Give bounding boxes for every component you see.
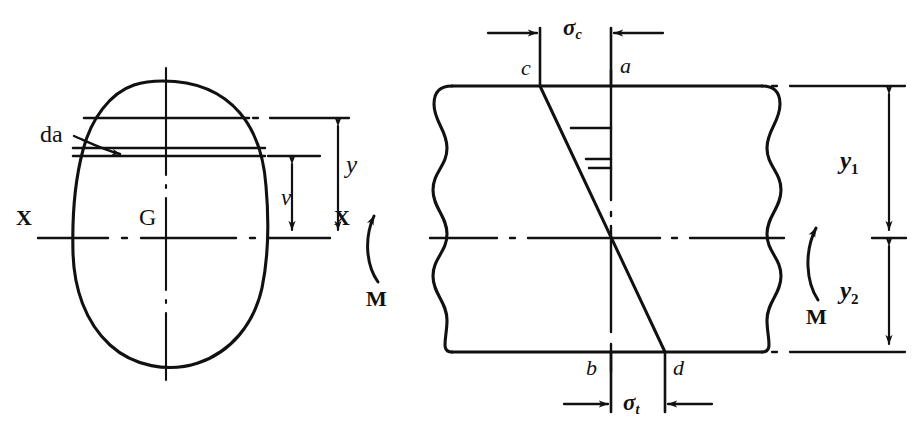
label-point-c: c: [521, 57, 531, 79]
label-moment-right: M: [806, 306, 827, 328]
cross-section-outline: [73, 81, 268, 367]
left-projection-lines: [253, 118, 349, 156]
label-point-a: a: [620, 55, 631, 77]
moment-arrow-left: [368, 216, 378, 282]
label-dimension-y2: y2: [840, 278, 859, 307]
label-point-b: b: [586, 357, 597, 379]
label-dimension-y: y: [346, 152, 357, 177]
label-sigma-c-subscript: c: [575, 26, 581, 42]
label-y2-subscript: 2: [851, 291, 859, 307]
label-point-d: d: [673, 357, 684, 379]
stress-diagonal-line: [540, 86, 665, 352]
label-sigma-t-subscript: t: [635, 401, 639, 417]
beam-outline: [433, 86, 781, 352]
moment-arrow-right: [808, 228, 818, 300]
figure-root: da G X X y v M σc c a b d σt y1 y2: [0, 0, 913, 432]
label-dimension-v: v: [281, 186, 291, 209]
label-sigma-c: σc: [563, 16, 582, 41]
label-dimension-y1: y1: [840, 148, 859, 177]
cross-section-strips: [73, 118, 265, 156]
label-da: da: [40, 122, 63, 146]
label-centroid-g: G: [139, 205, 156, 229]
da-leader-line: [74, 136, 120, 154]
label-y1-subscript: 1: [851, 161, 859, 177]
label-axis-x-right: X: [334, 207, 350, 229]
label-sigma-t: σt: [623, 391, 639, 416]
figure-drawing: [0, 0, 913, 432]
label-moment-left: M: [366, 288, 387, 310]
label-axis-x-left: X: [16, 207, 32, 229]
